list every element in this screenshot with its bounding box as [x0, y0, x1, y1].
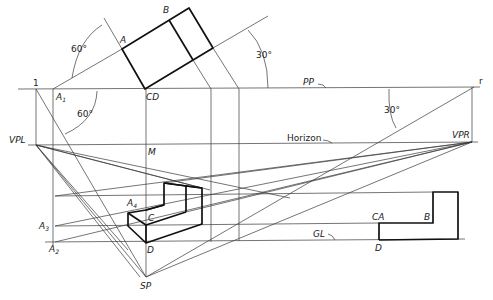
plan-view-step	[169, 20, 193, 60]
perspective-object-outline	[128, 183, 202, 243]
plan-right-ext	[213, 16, 268, 48]
label-A: A	[120, 36, 126, 45]
label-angle-60-top: 60°	[71, 45, 87, 54]
elevation-view	[379, 192, 458, 240]
label-SP: SP	[140, 282, 151, 291]
persp-edge	[186, 186, 202, 188]
height-line-step	[55, 223, 379, 226]
horizon-arrow	[323, 140, 332, 143]
label-angle-60-bottom: 60°	[77, 110, 93, 119]
label-A1: A1	[56, 93, 66, 103]
vpr-ray	[164, 142, 472, 183]
vpr-ray	[55, 142, 472, 226]
label-D: D	[147, 246, 154, 255]
label-elev-CA: CA	[372, 213, 384, 222]
height-line-top	[55, 192, 433, 196]
label-angle-30-right: 30°	[384, 106, 400, 115]
plan-view-object	[122, 8, 213, 89]
sight-right	[213, 48, 239, 89]
picture-plane-line	[18, 87, 480, 89]
label-elev-B: B	[424, 213, 430, 222]
label-A2: A2	[49, 245, 59, 255]
label-M: M	[148, 148, 156, 157]
sight-B	[193, 60, 211, 89]
label-VPL: VPL	[9, 136, 26, 145]
persp-edge	[128, 213, 146, 225]
label-r: r	[479, 77, 483, 86]
label-CD: CD	[146, 93, 159, 102]
gl-arrow	[328, 234, 335, 240]
label-B: B	[163, 6, 169, 15]
label-1: 1	[33, 79, 39, 88]
label-A4: A4	[127, 199, 137, 209]
vpl-ray	[36, 145, 128, 250]
label-angle-30-top: 30°	[256, 51, 272, 60]
plan-line-30deg	[53, 49, 122, 89]
horizon-line	[28, 142, 478, 145]
label-GL: GL	[313, 230, 325, 239]
label-PP: PP	[303, 78, 314, 87]
label-elev-D: D	[375, 244, 382, 253]
label-VPR: VPR	[452, 131, 470, 140]
label-horizon: Horizon	[287, 134, 321, 143]
vpl-ray	[36, 145, 140, 277]
label-C: C	[148, 214, 154, 223]
persp-edge	[164, 183, 186, 186]
label-A3: A3	[39, 222, 49, 232]
